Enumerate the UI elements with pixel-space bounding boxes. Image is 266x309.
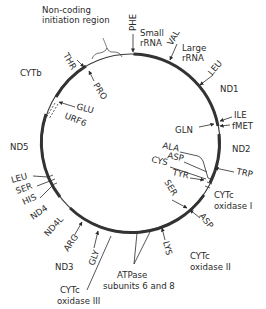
tyr-arrow bbox=[190, 178, 204, 180]
ile-arrow bbox=[220, 117, 232, 121]
glu-arrow bbox=[59, 102, 75, 107]
small-rrna-label-2: rRNA bbox=[140, 38, 162, 48]
large-rrna-label-2: rRNA bbox=[182, 53, 204, 63]
lys-arrow bbox=[162, 228, 165, 240]
nd2-label: ND2 bbox=[232, 144, 251, 154]
trna-ile: ILE bbox=[234, 110, 247, 120]
cox1-label-2: oxidase I bbox=[214, 201, 252, 211]
trna-fmet: fMET bbox=[232, 121, 254, 131]
mitochondrial-genome-map: Non-coding initiation region PHE Small r… bbox=[0, 0, 266, 309]
gly-arrow bbox=[94, 231, 98, 248]
ser1-arrow bbox=[172, 200, 187, 208]
cox2-label-2: oxidase II bbox=[190, 262, 231, 272]
fmet-arrow bbox=[220, 125, 230, 126]
arg-arrow bbox=[74, 222, 82, 236]
cox2-label: CYTc bbox=[190, 251, 210, 261]
trna-asp-1: ASP bbox=[167, 150, 185, 163]
nd4l-label: ND4L bbox=[42, 214, 65, 238]
noncoding-label: Non-coding bbox=[42, 5, 91, 15]
trna-ser-1: SER bbox=[162, 178, 179, 198]
trna-pro: PRO bbox=[91, 81, 109, 102]
trna-thr: THR bbox=[61, 50, 79, 71]
nd3-label: ND3 bbox=[55, 262, 74, 272]
trna-asp-2: ASP bbox=[197, 211, 215, 230]
cox-atp-nd-arc bbox=[70, 195, 204, 233]
gln-arrow bbox=[199, 124, 214, 127]
trna-val: VAL bbox=[165, 28, 182, 47]
noncoding-leader bbox=[103, 38, 107, 48]
nd5-arc bbox=[41, 114, 60, 197]
atpase-label-2: subunits 6 and 8 bbox=[103, 281, 175, 291]
trna-leu-1: LEU bbox=[206, 58, 224, 77]
trp-arrow bbox=[215, 168, 234, 172]
trna-tyr: TYR bbox=[171, 167, 190, 180]
asp2-arrow bbox=[190, 210, 200, 218]
trna-phe: PHE bbox=[128, 14, 138, 31]
trna-arg: ARG bbox=[61, 232, 80, 253]
trna-trp: TRP bbox=[235, 166, 254, 179]
noncoding-label-2: initiation region bbox=[42, 15, 110, 25]
rrna-nd1-arc bbox=[134, 54, 219, 126]
nd2-arc bbox=[210, 134, 219, 183]
pro-arrow bbox=[89, 71, 94, 81]
trna-gln: GLN bbox=[175, 125, 193, 135]
small-rrna-label: Small bbox=[140, 28, 164, 38]
nd5-label: ND5 bbox=[10, 142, 29, 152]
trna-glu: GLU bbox=[75, 101, 94, 115]
cytb-label: CYTb bbox=[20, 68, 42, 78]
trna-lys: LYS bbox=[161, 240, 174, 256]
nd1-label: ND1 bbox=[220, 84, 239, 94]
large-rrna-label: Large bbox=[182, 43, 206, 53]
cox3-label: CYTc bbox=[60, 285, 80, 295]
trna-gly: GLY bbox=[86, 248, 101, 267]
ser2-leader bbox=[37, 181, 50, 186]
leu1-arrow bbox=[200, 75, 213, 85]
trna-cys: CYS bbox=[151, 154, 169, 167]
trna-his: HIS bbox=[21, 192, 38, 207]
nd4-label: ND4 bbox=[28, 203, 49, 222]
atpase-label: ATPase bbox=[117, 270, 147, 280]
cox1-label: CYTc bbox=[214, 190, 234, 200]
cox3-label-2: oxidase III bbox=[57, 296, 100, 306]
leu2-leader bbox=[33, 176, 48, 177]
genome-circle-svg: Non-coding initiation region PHE Small r… bbox=[0, 0, 266, 309]
his-leader bbox=[40, 186, 52, 198]
